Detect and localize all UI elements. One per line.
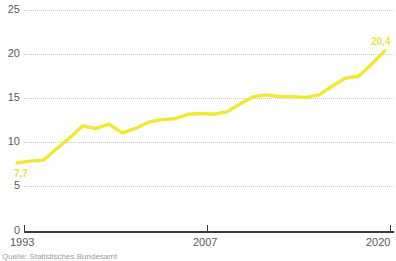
source-caption: Quelle: Statistisches Bundesamt (2, 252, 117, 261)
end-value-label: 20,4 (371, 36, 390, 47)
data-line-svg (0, 0, 396, 261)
start-value-label: 7,7 (14, 168, 28, 179)
line-chart: 25 20 15 10 5 0 1993 2007 2020 7,7 20,4 … (0, 0, 396, 261)
data-series-line (17, 51, 385, 163)
